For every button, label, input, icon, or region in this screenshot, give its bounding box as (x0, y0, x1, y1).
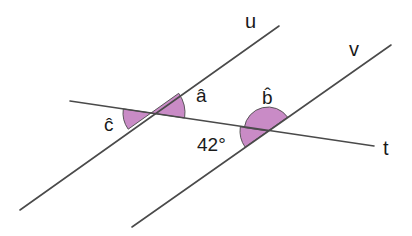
line-v-label: v (349, 38, 359, 60)
angle-c-label: ĉ (104, 114, 114, 135)
angle-b-label: b̂ (262, 87, 273, 108)
line-u-label: u (245, 10, 256, 32)
angle-a-label: â (196, 85, 207, 106)
line-u (20, 26, 279, 210)
line-v (132, 45, 391, 227)
line-t-label: t (383, 137, 389, 159)
angle-42-label: 42° (197, 134, 226, 155)
geometry-diagram: u v t â b̂ ĉ 42° (0, 0, 412, 236)
